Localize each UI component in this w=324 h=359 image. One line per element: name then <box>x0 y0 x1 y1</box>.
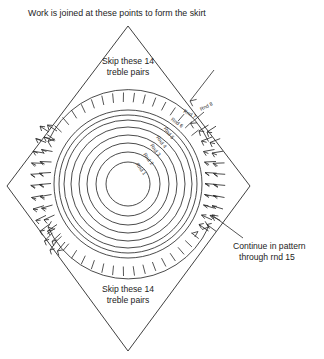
top-tick-marks <box>47 93 198 141</box>
bottom-note-line-2: treble pairs <box>107 295 150 305</box>
stitch-arrow <box>31 184 51 189</box>
continue-note: Continue in pattern through rnd 15 <box>233 241 306 262</box>
continue-note-leader <box>212 215 243 238</box>
crochet-pattern-diagram: Work is joined at these points to form t… <box>0 0 324 359</box>
bottom-note: Skip these 14 treble pairs <box>102 284 154 305</box>
stitch-arrow <box>205 162 225 168</box>
rnd8-inner-arrowhead <box>191 123 197 129</box>
bottom-brace-group <box>47 221 208 279</box>
stitch-arrow <box>32 162 52 167</box>
top-note: Skip these 14 treble pairs <box>102 56 154 77</box>
stitch-arrow <box>32 195 52 201</box>
leader-lines-group <box>190 70 243 238</box>
round-ring-6 <box>64 120 192 248</box>
round-label-5: Rnd 5 <box>163 126 176 141</box>
round-ring-8 <box>54 110 202 258</box>
round-callout-arrowhead <box>190 99 197 106</box>
round-ring-4 <box>79 135 177 233</box>
stitch-arrow <box>36 215 55 224</box>
stitch-arrow <box>33 205 53 212</box>
stitch-arrow <box>202 137 221 147</box>
bottom-right-leader-arrowhead <box>192 232 198 238</box>
top-brace-arc <box>48 90 209 142</box>
stitch-arrow <box>205 195 225 199</box>
stitch-arrow <box>204 150 224 158</box>
stitch-arrow <box>31 173 51 178</box>
concentric-rounds-group <box>54 110 202 258</box>
top-note-line-1: Skip these 14 <box>102 56 154 66</box>
bottom-note-line-1: Skip these 14 <box>102 284 154 294</box>
diagram-title: Work is joined at these points to form t… <box>28 8 206 18</box>
stitch-arrow <box>205 184 225 188</box>
round-ring-7 <box>59 115 197 253</box>
stitch-arrow <box>204 205 224 209</box>
round-label-1: Rnd 1 <box>135 162 148 177</box>
bottom-tick-marks <box>47 228 198 276</box>
pattern-diagram-canvas: Work is joined at these points to form t… <box>0 0 324 359</box>
round-label-6: Rnd 6 <box>170 116 185 129</box>
continue-note-line-2: through rnd 15 <box>239 252 295 262</box>
stitch-arrow <box>205 173 225 177</box>
left-stitch-arrows <box>31 125 65 256</box>
round-callout-leader <box>190 70 214 101</box>
continue-note-line-1: Continue in pattern <box>233 241 306 251</box>
top-note-line-2: treble pairs <box>107 67 150 77</box>
top-brace-group <box>47 90 208 148</box>
stitch-arrow <box>33 150 53 156</box>
round-label-8: Rnd 8 <box>199 100 214 111</box>
